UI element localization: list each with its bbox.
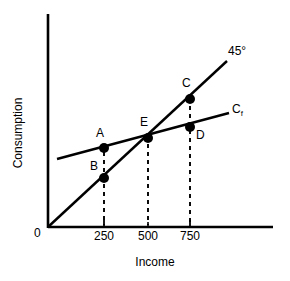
x-tick-label-750: 750 (170, 229, 210, 243)
data-point-a (99, 143, 109, 153)
x-axis-title: Income (110, 255, 200, 269)
point-label-b: B (90, 159, 98, 173)
data-point-c (185, 94, 195, 104)
data-point-e (143, 133, 153, 143)
y-axis-title: Consumption (11, 88, 25, 178)
point-label-c: C (182, 76, 191, 90)
data-point-d (185, 122, 195, 132)
point-label-d: D (196, 128, 205, 142)
line-cf-label-main: C (232, 102, 241, 116)
line-45-degree (48, 61, 227, 227)
data-point-b (99, 173, 109, 183)
point-label-e: E (140, 115, 148, 129)
point-label-a: A (96, 126, 104, 140)
line-cf-label-sub: f (241, 109, 243, 118)
x-tick-label-500: 500 (128, 229, 168, 243)
line-cf-label: Cf (232, 102, 243, 118)
x-tick-label-250: 250 (84, 229, 124, 243)
line-45-label: 45° (228, 44, 246, 58)
consumption-income-chart: Consumption Income 0 250 500 750 A B E C… (0, 0, 290, 281)
origin-label: 0 (34, 226, 41, 240)
